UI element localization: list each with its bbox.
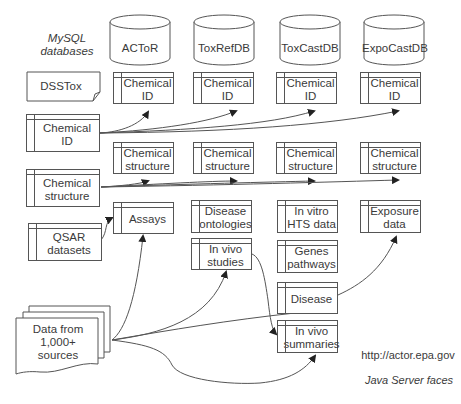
source-data-from-sources: Data from 1,000+ sources [18,323,98,362]
source-qsar-datasets: QSARdatasets [28,223,102,261]
table-genes-pathways: Genespathways [277,240,338,273]
table-assays: Assays [113,202,174,234]
table-expocastdb-chemical-id: ChemicalID [360,72,421,104]
cylinder-toxrefdb [194,15,254,65]
db-toxcastdb: ToxCastDB [280,42,340,55]
source-chemical-id: ChemicalID [26,114,100,152]
db-expocastdb: ExpoCastDB [362,42,426,55]
mysql-label-line2: databases [36,45,98,58]
table-exposure-data: Exposuredata [360,200,421,233]
mysql-databases-label: MySQL databases [36,32,98,58]
cylinder-actor [110,15,170,65]
table-in-vivo-summaries: In vivosummaries [277,320,338,353]
table-toxcastdb-chemical-id: ChemicalID [276,72,337,104]
table-actor-chemical-id: ChemicalID [113,72,174,104]
mysql-label-line1: MySQL [36,32,98,45]
url-label: http://actor.epa.gov [355,349,461,362]
table-disease: Disease [277,282,338,314]
data-line2: 1,000+ [18,336,98,349]
table-in-vitro-hts-data: In vitroHTS data [277,200,338,233]
db-toxrefdb: ToxRefDB [194,42,254,55]
table-actor-chemical-structure: Chemicalstructure [113,142,174,174]
db-actor: ACToR [110,42,170,55]
table-toxrefdb-chemical-structure: Chemicalstructure [193,142,254,174]
table-disease-ontologies: Diseaseontologies [191,200,252,233]
table-toxrefdb-chemical-id: ChemicalID [193,72,254,104]
source-chemical-structure: Chemicalstructure [26,169,100,207]
dsstox-label: DSSTox [30,80,92,93]
table-in-vivo-studies: In vivostudies [191,238,252,270]
table-toxcastdb-chemical-structure: Chemicalstructure [276,142,337,174]
table-expocastdb-chemical-structure: Chemicalstructure [360,142,421,174]
data-line3: sources [18,349,98,362]
data-line1: Data from [18,323,98,336]
cylinder-toxcastdb [280,15,340,65]
cylinder-expocastdb [364,15,424,65]
tech-label: Java Server faces [360,374,458,387]
